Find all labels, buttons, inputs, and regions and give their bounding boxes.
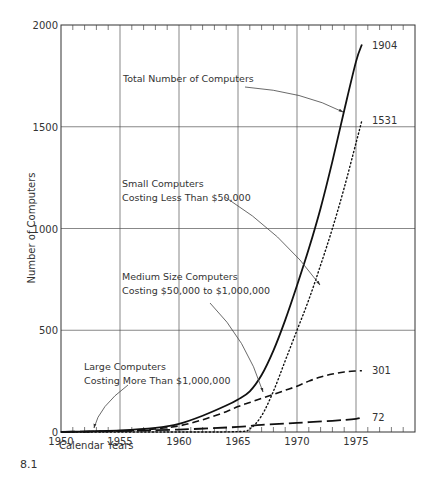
- x-tick-label: 1960: [166, 436, 191, 447]
- series-line-0: [61, 45, 362, 432]
- series-end-label: 1531: [372, 115, 397, 126]
- series-end-label: 301: [372, 365, 391, 376]
- line-chart: 1950195519601965197019750500100015002000…: [0, 0, 435, 481]
- annotation-text: Medium Size Computers: [122, 271, 238, 282]
- y-tick-label: 2000: [33, 20, 58, 31]
- x-axis-label: Calendar Years: [59, 440, 134, 451]
- series-end-label: 72: [372, 412, 385, 423]
- annotation-text: Costing More Than $1,000,000: [84, 375, 230, 386]
- y-tick-label: 1500: [33, 122, 58, 133]
- series-line-3: [61, 417, 362, 432]
- annotation-text: Small Computers: [122, 178, 204, 189]
- annotations: Total Number of ComputersSmall Computers…: [84, 73, 343, 428]
- x-tick-label: 1970: [284, 436, 309, 447]
- annotation-arrow: [94, 385, 128, 428]
- x-tick-label: 1965: [225, 436, 250, 447]
- annotation-text: Total Number of Computers: [122, 73, 254, 84]
- annotation-text: Large Computers: [84, 361, 166, 372]
- figure-label: 8.1: [20, 458, 38, 471]
- series-end-label: 1904: [372, 40, 397, 51]
- annotation-arrow: [245, 87, 343, 112]
- annotation-arrow: [225, 197, 320, 285]
- x-tick-label: 1975: [343, 436, 368, 447]
- series-lines: 1904153130172: [61, 40, 397, 432]
- y-tick-label: 500: [39, 325, 58, 336]
- annotation-text: Costing $50,000 to $1,000,000: [122, 285, 270, 296]
- y-tick-label: 0: [52, 427, 58, 438]
- y-axis-label: Number of Computers: [26, 172, 37, 283]
